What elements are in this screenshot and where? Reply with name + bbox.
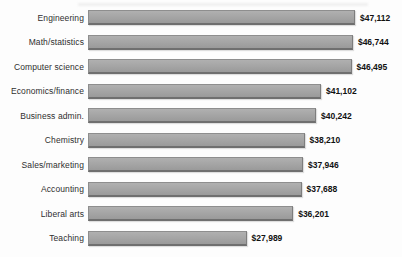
bar-rows-container: Engineering$47,112Math/statistics$46,744… (0, 9, 402, 247)
top-crop-artifact (78, 3, 368, 6)
bar-row: Math/statistics$46,744 (0, 34, 402, 52)
category-label: Computer science (0, 62, 84, 72)
bar-row: Teaching$27,989 (0, 230, 402, 248)
bar-track: $38,210 (88, 132, 402, 150)
value-label: $41,102 (326, 86, 357, 96)
value-bar (88, 108, 316, 123)
value-label: $37,946 (308, 160, 339, 170)
category-label: Accounting (0, 184, 84, 194)
bar-track: $46,744 (88, 34, 402, 52)
bar-track: $36,201 (88, 205, 402, 223)
category-label: Liberal arts (0, 209, 84, 219)
value-label: $36,201 (298, 209, 329, 219)
bar-row: Accounting$37,688 (0, 181, 402, 199)
value-bar (88, 133, 305, 148)
category-label: Sales/marketing (0, 160, 84, 170)
bar-row: Liberal arts$36,201 (0, 205, 402, 223)
value-bar (88, 10, 355, 25)
bar-track: $41,102 (88, 83, 402, 101)
value-label: $47,112 (360, 13, 390, 23)
value-label: $46,744 (358, 37, 389, 47)
category-label: Engineering (0, 13, 84, 23)
salary-bar-chart: Engineering$47,112Math/statistics$46,744… (0, 0, 402, 257)
bar-track: $37,688 (88, 181, 402, 199)
bar-track: $37,946 (88, 156, 402, 174)
value-bar (88, 35, 353, 50)
category-label: Math/statistics (0, 37, 84, 47)
bar-track: $46,495 (88, 58, 402, 76)
bar-track: $40,242 (88, 107, 402, 125)
bar-row: Sales/marketing$37,946 (0, 156, 402, 174)
value-label: $40,242 (321, 111, 352, 121)
value-bar (88, 206, 293, 221)
value-bar (88, 231, 247, 246)
category-label: Chemistry (0, 135, 84, 145)
bar-track: $27,989 (88, 230, 402, 248)
value-label: $46,495 (357, 62, 388, 72)
bar-row: Chemistry$38,210 (0, 132, 402, 150)
value-bar (88, 157, 303, 172)
value-label: $27,989 (252, 233, 283, 243)
category-label: Business admin. (0, 111, 84, 121)
category-label: Teaching (0, 233, 84, 243)
bar-row: Economics/finance$41,102 (0, 83, 402, 101)
value-bar (88, 59, 352, 74)
bar-row: Engineering$47,112 (0, 9, 402, 27)
value-label: $37,688 (307, 184, 338, 194)
category-label: Economics/finance (0, 86, 84, 96)
value-bar (88, 182, 302, 197)
value-bar (88, 84, 321, 99)
bar-row: Business admin.$40,242 (0, 107, 402, 125)
bar-row: Computer science$46,495 (0, 58, 402, 76)
bar-track: $47,112 (88, 9, 402, 27)
value-label: $38,210 (310, 135, 341, 145)
